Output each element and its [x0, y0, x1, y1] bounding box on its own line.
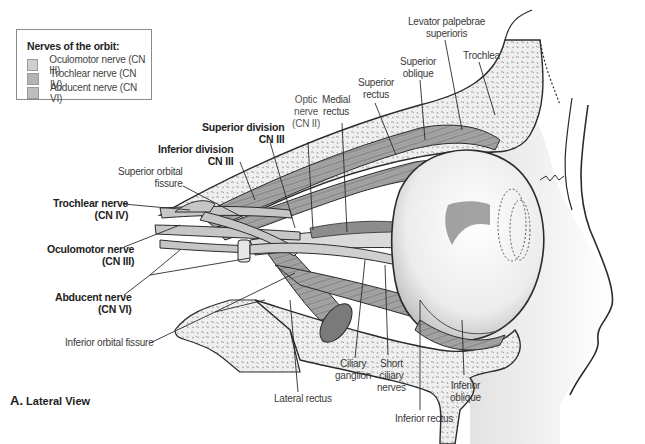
label-medial-rectus: Medial rectus [322, 94, 350, 118]
legend: Nerves of the orbit: Oculomotor nerve (C… [16, 29, 152, 100]
label-ciliary-ganglion: Ciliary ganglion [335, 358, 371, 382]
label-short-ciliary-nerves: Short ciliary nerves [377, 358, 406, 394]
label-trochlear-nerve: Trochlear nerve (CN IV) [53, 197, 128, 221]
orbit-lateral-view-figure: Nerves of the orbit: Oculomotor nerve (C… [0, 0, 645, 444]
label-lateral-rectus: Lateral rectus [274, 393, 332, 405]
legend-title: Nerves of the orbit: [27, 40, 119, 52]
label-superior-oblique: Superior oblique [400, 56, 436, 80]
label-inferior-oblique: Inferior oblique [450, 380, 481, 404]
eyeball [392, 150, 544, 341]
label-trochlea: Trochlea [463, 50, 500, 62]
label-optic-nerve: Optic nerve (CN II) [292, 94, 320, 130]
caption-text: Lateral View [26, 395, 90, 407]
label-inferior-rectus: Inferior rectus [395, 413, 453, 425]
legend-item-abducent: Abducent nerve (CN VI) [27, 86, 151, 100]
legend-swatch-abducent [27, 87, 39, 99]
label-superior-rectus: Superior rectus [358, 77, 394, 101]
label-levator-palpebrae-superioris: Levator palpebrae superioris [408, 16, 485, 40]
caption-letter: A. [10, 393, 23, 408]
legend-swatch-oculomotor [27, 59, 38, 71]
label-abducent-nerve: Abducent nerve (CN VI) [55, 291, 132, 315]
legend-label-abducent: Abducent nerve (CN VI) [50, 82, 151, 104]
label-superior-division-cn3: Superior division CN III [202, 121, 284, 145]
figure-caption: A. Lateral View [10, 393, 90, 408]
legend-swatch-trochlear [27, 73, 39, 85]
label-superior-orbital-fissure: Superior orbital fissure [118, 166, 183, 190]
label-oculomotor-nerve: Oculomotor nerve (CN III) [47, 243, 134, 267]
label-inferior-orbital-fissure: Inferior orbital fissure [65, 337, 154, 349]
label-inferior-division-cn3: Inferior division CN III [158, 143, 233, 167]
